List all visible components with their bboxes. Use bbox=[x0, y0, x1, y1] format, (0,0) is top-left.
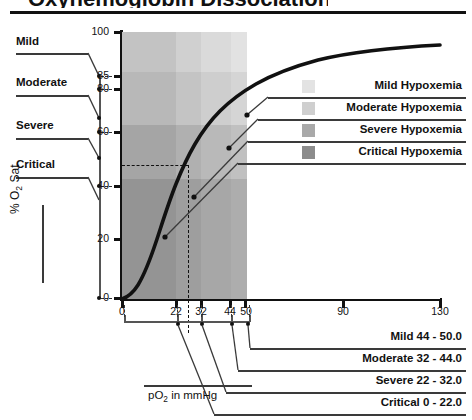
x-axis-caption-rule bbox=[144, 385, 252, 387]
severity-rule-severe bbox=[16, 138, 88, 140]
severity-label-moderate: Moderate bbox=[16, 76, 67, 88]
x-tick-label-50: 50 bbox=[233, 305, 259, 317]
x-bracket-dot-moderate bbox=[200, 322, 204, 326]
y-tick-label-80: 80 bbox=[83, 82, 109, 94]
x-axis-caption-prefix: pO bbox=[148, 389, 163, 401]
y-axis-caption-sub: 2 bbox=[14, 186, 24, 191]
legend-swatch-critical bbox=[302, 146, 315, 159]
y-tick-label-100: 100 bbox=[83, 25, 109, 37]
y-tick-60 bbox=[114, 131, 121, 134]
x-axis-caption: pO2 in mmHg bbox=[148, 389, 217, 404]
severity-label-severe: Severe bbox=[16, 119, 54, 131]
y-tick-20 bbox=[114, 238, 121, 241]
range-label-severe: Severe 22 - 32.0 bbox=[330, 374, 462, 386]
title-underline bbox=[10, 11, 466, 14]
plot-area bbox=[122, 32, 440, 299]
chart-root: Oxyhemoglobin Dissociation Curve Mild Mo… bbox=[0, 0, 472, 420]
y-tick-0 bbox=[114, 297, 121, 300]
x-dash-44 bbox=[231, 305, 232, 317]
y-tick-40 bbox=[114, 185, 121, 188]
legend-label-moderate: Moderate Hypoxemia bbox=[330, 101, 462, 113]
x-bracket-dot-mild-low bbox=[230, 322, 234, 326]
y-tick-label-60: 60 bbox=[83, 125, 109, 137]
y-tick-label-85: 85 bbox=[83, 69, 109, 81]
x-tick-label-22: 22 bbox=[163, 305, 189, 317]
y-tick-label-40: 40 bbox=[83, 179, 109, 191]
y-bracket-dot-severe bbox=[97, 156, 101, 160]
legend-swatch-severe bbox=[302, 124, 315, 137]
legend-label-mild: Mild Hypoxemia bbox=[340, 79, 462, 91]
y-axis-caption-rule bbox=[42, 205, 44, 283]
legend-label-critical: Critical Hypoxemia bbox=[338, 145, 462, 157]
legend-rule-critical bbox=[238, 163, 466, 165]
range-rule-severe bbox=[226, 392, 466, 394]
y-axis-caption: % O2 Sat bbox=[8, 165, 24, 215]
legend-rule-moderate bbox=[258, 119, 466, 121]
y-axis-caption-suffix: Sat bbox=[8, 165, 22, 186]
x-tick-label-0: 0 bbox=[109, 305, 135, 317]
x-tick-label-90: 90 bbox=[330, 305, 356, 317]
severity-label-mild: Mild bbox=[16, 35, 39, 47]
severity-rule-moderate bbox=[16, 95, 88, 97]
x-tick-label-130: 130 bbox=[427, 305, 453, 317]
y-tick-80 bbox=[114, 88, 121, 91]
legend-label-severe: Severe Hypoxemia bbox=[340, 123, 462, 135]
y-tick-label-0: 0 bbox=[83, 291, 109, 303]
range-rule-critical bbox=[214, 414, 466, 416]
range-label-critical: Critical 0 - 22.0 bbox=[330, 396, 462, 408]
legend-rule-severe bbox=[248, 141, 466, 143]
x-bracket-dot-mild-high bbox=[246, 322, 250, 326]
y-tick-100 bbox=[114, 31, 121, 34]
range-rule-mild bbox=[250, 348, 466, 350]
range-label-moderate: Moderate 32 - 44.0 bbox=[318, 352, 462, 364]
x-dash-32 bbox=[201, 305, 202, 317]
legend-swatch-moderate bbox=[302, 102, 315, 115]
severity-rule-mild bbox=[16, 53, 88, 55]
y-axis-caption-prefix: % O bbox=[8, 191, 22, 214]
page-title: Oxyhemoglobin Dissociation Curve bbox=[28, 0, 328, 8]
legend-swatch-mild bbox=[302, 80, 315, 93]
range-label-mild: Mild 44 - 50.0 bbox=[330, 330, 462, 342]
x-dash-50 bbox=[249, 305, 250, 317]
range-rule-moderate bbox=[238, 370, 466, 372]
y-tick-label-20: 20 bbox=[83, 232, 109, 244]
y-bracket-dot-moderate bbox=[97, 116, 101, 120]
severity-rule-critical bbox=[16, 177, 88, 179]
x-dash-0 bbox=[124, 305, 125, 317]
legend-rule-mild bbox=[268, 97, 466, 99]
x-axis-caption-suffix: in mmHg bbox=[168, 389, 217, 401]
x-bracket-dot-severe bbox=[176, 322, 180, 326]
oxyhemoglobin-curve bbox=[122, 32, 440, 299]
x-dash-22 bbox=[177, 305, 178, 317]
y-tick-85 bbox=[114, 75, 121, 78]
